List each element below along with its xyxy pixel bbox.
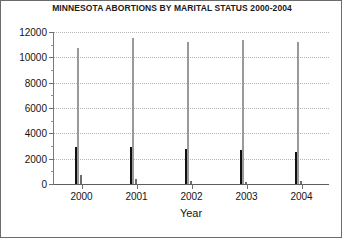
y-axis-tick-label: 4000	[25, 128, 47, 139]
bar-group-bars	[164, 32, 219, 184]
bar-unknown-2000	[80, 175, 82, 185]
y-axis-tick-label: 6000	[25, 103, 47, 114]
bar-group: 2001	[109, 32, 164, 184]
bar-unmarried-2002	[187, 42, 189, 185]
bar-group: 2000	[54, 32, 109, 184]
x-axis-tick-label-2000: 2000	[70, 191, 92, 202]
chart-container: MINNESOTA ABORTIONS BY MARITAL STATUS 20…	[0, 0, 342, 238]
bar-group-bars	[274, 32, 329, 184]
bar-unmarried-2004	[297, 42, 299, 184]
bar-group: 2004	[274, 32, 329, 184]
bar-group-bars	[109, 32, 164, 184]
x-axis-tick-label-2001: 2001	[125, 191, 147, 202]
x-axis-tick	[137, 184, 138, 189]
y-axis-tick-label: 10000	[19, 52, 47, 63]
y-axis-tick-label: 2000	[25, 153, 47, 164]
bar-group-bars	[219, 32, 274, 184]
plot-area: 020004000600080001000012000 200020012002…	[53, 32, 329, 185]
x-axis-label: Year	[53, 207, 329, 219]
y-axis-tick-label: 8000	[25, 77, 47, 88]
chart-title: MINNESOTA ABORTIONS BY MARITAL STATUS 20…	[1, 3, 342, 13]
bar-unmarried-2003	[242, 40, 244, 184]
x-axis-tick	[247, 184, 248, 189]
x-axis-tick	[192, 184, 193, 189]
x-axis-tick-label-2004: 2004	[290, 191, 312, 202]
bar-unmarried-2001	[132, 38, 134, 184]
bar-group-bars	[54, 32, 109, 184]
bar-group: 2003	[219, 32, 274, 184]
y-axis-tick	[49, 184, 54, 185]
y-axis-tick-label: 12000	[19, 27, 47, 38]
bar-group: 2002	[164, 32, 219, 184]
x-axis-tick	[302, 184, 303, 189]
x-axis-tick-label-2003: 2003	[235, 191, 257, 202]
x-axis-tick	[82, 184, 83, 189]
x-axis-tick-label-2002: 2002	[180, 191, 202, 202]
y-axis-tick-label: 0	[41, 179, 47, 190]
bar-unmarried-2000	[77, 48, 79, 184]
